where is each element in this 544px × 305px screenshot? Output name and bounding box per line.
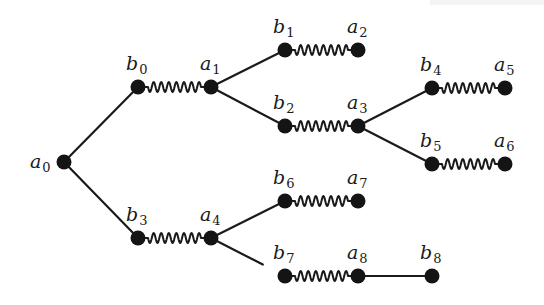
node-b3 <box>131 231 146 246</box>
label-b3: b3 <box>126 203 147 228</box>
node-b5 <box>425 157 440 172</box>
spring-edge-b1-a2 <box>285 45 358 55</box>
labels-layer: a0b0a1b1a2b2a3b4a5b5a6b3a4b6a7b7a8b8 <box>30 15 515 266</box>
node-a5 <box>498 81 513 96</box>
spring-edge-b5-a6 <box>432 159 505 169</box>
node-a2 <box>351 43 366 58</box>
line-edge-a0-b3 <box>64 162 138 238</box>
line-edge-a4-b6 <box>211 201 285 238</box>
spring-edge-b3-a4 <box>138 233 211 243</box>
node-b4 <box>425 81 440 96</box>
spring-tree-diagram: a0b0a1b1a2b2a3b4a5b5a6b3a4b6a7b7a8b8 <box>0 0 544 305</box>
node-a0 <box>57 155 72 170</box>
label-b5: b5 <box>420 129 441 154</box>
label-a0: a0 <box>30 150 51 175</box>
node-b1 <box>278 43 293 58</box>
line-edge-a4-b7 <box>211 238 263 265</box>
line-edge-a1-b1 <box>211 50 285 87</box>
line-edge-a0-b0 <box>64 87 138 162</box>
node-a6 <box>498 157 513 172</box>
spring-edge-b4-a5 <box>432 83 505 93</box>
node-a8 <box>351 269 366 284</box>
node-a7 <box>351 194 366 209</box>
node-b7 <box>278 269 293 284</box>
label-a6: a6 <box>494 129 515 154</box>
node-b8 <box>425 269 440 284</box>
spring-edge-b0-a1 <box>138 82 211 92</box>
line-edge-a3-b4 <box>358 88 432 126</box>
label-a8: a8 <box>347 241 368 266</box>
label-a4: a4 <box>200 203 221 228</box>
node-b2 <box>278 119 293 134</box>
label-b0: b0 <box>126 52 147 77</box>
label-a1: a1 <box>200 52 221 77</box>
label-b2: b2 <box>273 91 294 116</box>
spring-edge-b7-a8 <box>285 271 358 281</box>
node-b6 <box>278 194 293 209</box>
label-b8: b8 <box>420 241 441 266</box>
label-b4: b4 <box>420 53 441 78</box>
label-a7: a7 <box>347 166 368 191</box>
spring-edge-b6-a7 <box>285 196 358 206</box>
node-b0 <box>131 80 146 95</box>
label-b1: b1 <box>273 15 294 40</box>
node-a4 <box>204 231 219 246</box>
label-a2: a2 <box>347 15 368 40</box>
label-a3: a3 <box>347 91 368 116</box>
label-b7: b7 <box>273 241 294 266</box>
spring-edge-b2-a3 <box>285 121 358 131</box>
node-a1 <box>204 80 219 95</box>
label-b6: b6 <box>273 166 294 191</box>
label-a5: a5 <box>494 53 515 78</box>
node-a3 <box>351 119 366 134</box>
